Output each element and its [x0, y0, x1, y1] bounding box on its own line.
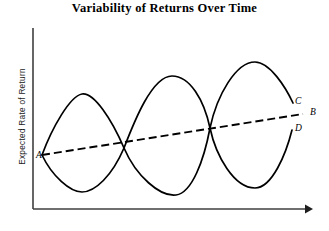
- curve-label-c: C: [295, 96, 301, 106]
- x-axis-arrowhead: [305, 205, 313, 214]
- average-trend-line: [42, 114, 303, 155]
- plot-area: [0, 0, 329, 231]
- curve-label-d: D: [295, 123, 302, 133]
- curve-label-b: B: [310, 107, 316, 117]
- variability-curve-d: [42, 76, 292, 192]
- variability-curve-c: [42, 62, 293, 195]
- curve-label-a: A: [36, 150, 42, 160]
- chart-figure: Variability of Returns Over Time Expecte…: [0, 0, 329, 231]
